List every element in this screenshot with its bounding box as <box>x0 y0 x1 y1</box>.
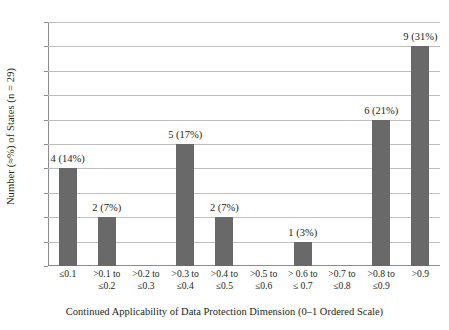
x-tick-label: >0.5 to≤0.6 <box>244 268 283 293</box>
x-tick-label-line2: ≤ 0.7 <box>283 280 322 292</box>
x-tick-label-line1: >0.1 to <box>93 268 120 279</box>
x-tick-label-line1: >0.9 <box>412 268 429 279</box>
x-tick-label-line1: ≤0.1 <box>59 268 76 279</box>
bar-group: 2 (7%) <box>205 22 244 266</box>
bar-group: 5 (17%) <box>166 22 205 266</box>
x-tick-label: >0.3 to≤0.4 <box>166 268 205 293</box>
bar-value-label: 6 (21%) <box>364 105 398 116</box>
x-tick-label: > 0.6 to≤ 0.7 <box>283 268 322 293</box>
x-tick-label-line1: >0.3 to <box>172 268 199 279</box>
bar <box>98 217 116 266</box>
x-tick-label: ≤0.1 <box>48 268 87 280</box>
bar-group: 6 (21%) <box>362 22 401 266</box>
bar-chart: Number (≈%) of States (n = 29) 012345678… <box>0 0 449 330</box>
y-axis-title: Number (≈%) of States (n = 29) <box>0 0 22 272</box>
x-axis-title: Continued Applicability of Data Protecti… <box>0 306 449 317</box>
x-tick-label: >0.4 to≤0.5 <box>205 268 244 293</box>
x-tick-label: >0.9 <box>401 268 440 280</box>
bar <box>59 168 77 266</box>
x-tick-label-line2: ≤0.5 <box>205 280 244 292</box>
x-tick-label-line1: >0.8 to <box>368 268 395 279</box>
plot-area: 012345678910 4 (14%)2 (7%)5 (17%)2 (7%)1… <box>48 22 440 266</box>
bar-value-label: 5 (17%) <box>168 129 202 140</box>
x-tick-label-line1: >0.5 to <box>250 268 277 279</box>
bar-group <box>322 22 361 266</box>
bar-value-label: 2 (7%) <box>92 202 121 213</box>
x-tick-label-line2: ≤0.3 <box>126 280 165 292</box>
bar <box>294 242 312 266</box>
bar-value-label: 1 (3%) <box>288 227 317 238</box>
x-tick-label-line2: ≤0.8 <box>322 280 361 292</box>
x-tick-label: >0.2 to≤0.3 <box>126 268 165 293</box>
bar-group: 2 (7%) <box>87 22 126 266</box>
bar-group <box>126 22 165 266</box>
bar <box>372 120 390 266</box>
x-tick-label-line1: >0.7 to <box>328 268 355 279</box>
x-tick-label-line1: > 0.6 to <box>288 268 318 279</box>
bar <box>176 144 194 266</box>
y-tick-mark <box>44 266 48 267</box>
bar-value-label: 4 (14%) <box>51 153 85 164</box>
x-tick-label-line1: >0.2 to <box>132 268 159 279</box>
x-tick-label-line2: ≤0.2 <box>87 280 126 292</box>
bar <box>215 217 233 266</box>
x-tick-label-line1: >0.4 to <box>211 268 238 279</box>
y-axis-title-text: Number (≈%) of States (n = 29) <box>6 67 17 204</box>
x-tick-label-line2: ≤0.4 <box>166 280 205 292</box>
x-tick-label: >0.7 to≤0.8 <box>322 268 361 293</box>
bars: 4 (14%)2 (7%)5 (17%)2 (7%)1 (3%)6 (21%)9… <box>48 22 440 266</box>
bar <box>411 46 429 266</box>
bar-group: 9 (31%) <box>401 22 440 266</box>
bar-value-label: 9 (31%) <box>403 31 437 42</box>
x-axis-tick-labels: ≤0.1>0.1 to≤0.2>0.2 to≤0.3>0.3 to≤0.4>0.… <box>48 268 440 302</box>
x-axis-title-text: Continued Applicability of Data Protecti… <box>66 306 383 317</box>
x-tick-label-line2: ≤0.6 <box>244 280 283 292</box>
x-tick-label: >0.1 to≤0.2 <box>87 268 126 293</box>
x-tick-label: >0.8 to≤0.9 <box>362 268 401 293</box>
x-tick-label-line2: ≤0.9 <box>362 280 401 292</box>
bar-group: 4 (14%) <box>48 22 87 266</box>
bar-group: 1 (3%) <box>283 22 322 266</box>
bar-value-label: 2 (7%) <box>210 202 239 213</box>
bar-group <box>244 22 283 266</box>
